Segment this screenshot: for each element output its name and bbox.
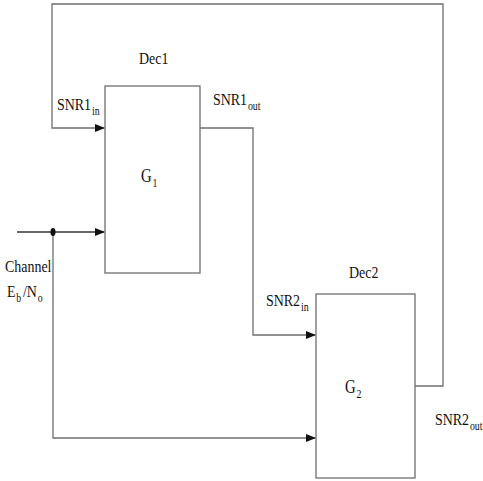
g2-function-label: G2 <box>345 378 361 396</box>
snr2-in-label: SNR2in <box>266 292 309 309</box>
snr1-in-label: SNR1in <box>57 96 100 113</box>
dec2-block <box>316 294 415 478</box>
dec1-title: Dec1 <box>139 50 168 67</box>
snr1-out-label: SNR1out <box>213 91 260 108</box>
channel-label: Channel <box>5 258 51 275</box>
dec2-title: Dec2 <box>349 264 378 281</box>
junction-dot <box>51 228 56 236</box>
snr2-out-label: SNR2out <box>435 411 482 428</box>
g1-function-label: G1 <box>141 167 157 185</box>
ebno-label: Eb/No <box>7 283 43 300</box>
feedback-line <box>52 4 443 386</box>
